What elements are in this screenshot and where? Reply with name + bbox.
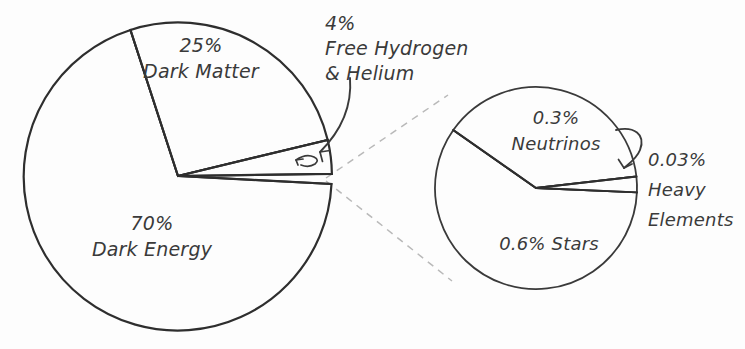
connector-line-bottom <box>326 181 452 281</box>
label-hydrogen-name-line2: & Helium <box>325 62 415 84</box>
pie-chart-figure: 25% Dark Matter 70% Dark Energy 4% Free … <box>0 0 745 349</box>
label-hydrogen-name-line1: Free Hydrogen <box>325 37 469 59</box>
label-dark-matter-name: Dark Matter <box>143 60 260 82</box>
label-neutrinos-percent: 0.3% <box>533 107 580 128</box>
label-dark-energy-name: Dark Energy <box>92 238 213 260</box>
label-heavy-elements-percent: 0.03% <box>648 149 706 170</box>
label-hydrogen-percent: 4% <box>325 12 356 34</box>
label-dark-energy-percent: 70% <box>131 212 174 234</box>
label-neutrinos-name: Neutrinos <box>511 133 600 154</box>
label-heavy-elements-name-line1: Heavy <box>648 179 706 200</box>
universe-composition-diagram: 25% Dark Matter 70% Dark Energy 4% Free … <box>0 0 745 349</box>
label-heavy-elements-name-line2: Elements <box>648 209 734 230</box>
label-stars: 0.6% Stars <box>499 233 599 254</box>
connector-line-top <box>326 95 448 178</box>
label-dark-matter-percent: 25% <box>180 34 223 56</box>
explosion-connector-group <box>326 95 452 281</box>
